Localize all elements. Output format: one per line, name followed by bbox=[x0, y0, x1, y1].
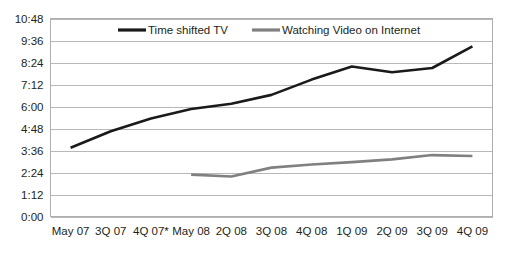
y-axis-label: 9:36 bbox=[21, 35, 43, 47]
chart-legend: Time shifted TVWatching Video on Interne… bbox=[118, 24, 421, 36]
x-axis-label: 4Q 09 bbox=[457, 225, 488, 237]
series-line-time-shifted-tv bbox=[71, 46, 473, 147]
y-axis-label: 10:48 bbox=[15, 13, 44, 25]
x-axis-label: 3Q 09 bbox=[417, 225, 448, 237]
y-axis-label: 0:00 bbox=[21, 211, 43, 223]
x-axis-label: 2Q 09 bbox=[376, 225, 407, 237]
y-axis-label: 8:24 bbox=[21, 57, 44, 69]
y-axis-label: 3:36 bbox=[21, 145, 43, 157]
x-axis-tick-labels: May 073Q 074Q 07*May 082Q 083Q 084Q 081Q… bbox=[52, 225, 488, 237]
x-axis-label: 2Q 08 bbox=[216, 225, 247, 237]
y-axis-label: 1:12 bbox=[21, 189, 43, 201]
x-axis-label: 1Q 09 bbox=[336, 225, 367, 237]
y-axis-label: 7:12 bbox=[21, 79, 43, 91]
y-axis-label: 4:48 bbox=[21, 123, 43, 135]
x-axis-label: 3Q 08 bbox=[256, 225, 287, 237]
y-axis-tick-labels: 10:489:368:247:126:004:483:362:241:120:0… bbox=[15, 13, 44, 223]
y-axis-label: 2:24 bbox=[21, 167, 44, 179]
y-axis-label: 6:00 bbox=[21, 101, 43, 113]
x-axis-label: May 08 bbox=[172, 225, 210, 237]
x-axis-label: 3Q 07 bbox=[95, 225, 126, 237]
plot-area-border bbox=[51, 19, 493, 217]
x-axis-label: May 07 bbox=[52, 225, 90, 237]
legend-label-time-shifted-tv: Time shifted TV bbox=[148, 24, 228, 36]
chart-container: 10:489:368:247:126:004:483:362:241:120:0… bbox=[0, 0, 508, 257]
series-lines bbox=[71, 46, 473, 176]
line-chart: 10:489:368:247:126:004:483:362:241:120:0… bbox=[0, 0, 508, 257]
legend-label-watching-video-on-internet: Watching Video on Internet bbox=[282, 24, 421, 36]
gridlines bbox=[51, 20, 493, 218]
x-axis-label: 4Q 07* bbox=[133, 225, 169, 237]
x-axis-label: 4Q 08 bbox=[296, 225, 327, 237]
